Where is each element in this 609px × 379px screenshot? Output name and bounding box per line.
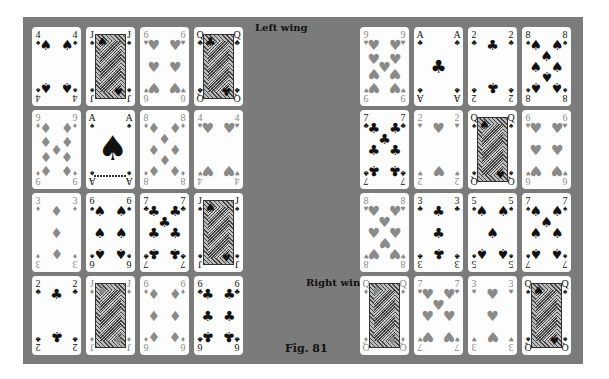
heart-icon: ♥	[168, 38, 182, 52]
playing-card-2-of-clubs: 2♣2♣2♣2♣♣♣	[32, 276, 81, 355]
club-icon: ♣	[486, 81, 500, 95]
figure-caption: Fig. 81	[285, 342, 328, 355]
spade-icon: ♠	[496, 204, 510, 218]
card-index: 3♣	[416, 252, 424, 269]
card-index: 2♣	[470, 86, 478, 103]
card-index: J♠	[233, 252, 241, 269]
club-icon: ♣	[233, 39, 241, 47]
club-icon: ♣	[367, 143, 381, 157]
playing-card-a-of-spades: A♠A♠A♠A♠♠	[86, 110, 135, 189]
playing-card-6-of-spades: 6♠6♠6♠6♠♠♠♠♠♠♠	[86, 193, 135, 272]
club-icon: ♣	[222, 287, 236, 301]
card-index: Q♠	[507, 169, 515, 186]
playing-card-j-of-diamonds: J♦J♦J♦J♦♦♦	[86, 276, 135, 355]
card-index: 2♥	[453, 113, 461, 130]
card-index: 2♥	[416, 113, 424, 130]
heart-icon: ♥	[147, 38, 161, 52]
spade-icon: ♠	[93, 247, 107, 261]
playing-card-9-of-hearts: 9♥9♥9♥9♥♥♥♥♥♥♥♥♥♥	[360, 27, 409, 106]
playing-card-8-of-diamonds: 8♦8♦8♦8♦♦♦♦♦♦♦♦♦	[140, 110, 189, 189]
heart-icon: ♥	[416, 122, 424, 130]
left-wing-label: Left wing	[255, 22, 307, 33]
spade-icon: ♠	[550, 247, 564, 261]
club-icon: ♣	[222, 330, 236, 344]
heart-icon: ♥	[201, 164, 215, 178]
spade-icon: ♠	[529, 226, 543, 240]
playing-card-2-of-clubs: 2♣2♣2♣2♣♣♣	[468, 27, 517, 106]
playing-card-5-of-spades: 5♠5♠5♠5♠♠♠♠♠♠	[468, 193, 517, 272]
club-icon: ♣	[147, 247, 161, 261]
club-icon: ♣	[201, 309, 215, 323]
playing-card-9-of-diamonds: 9♦9♦9♦9♦♦♦♦♦♦♦♦♦♦	[32, 110, 81, 189]
club-icon: ♣	[453, 205, 461, 213]
heart-icon: ♥	[529, 143, 543, 157]
card-index: A♣	[453, 86, 461, 103]
playing-card-7-of-clubs: 7♣7♣7♣7♣♣♣♣♣♣♣♣	[140, 193, 189, 272]
diamond-icon: ♦	[60, 164, 74, 178]
club-icon: ♣	[201, 287, 215, 301]
spade-icon: ♠	[205, 202, 216, 214]
playing-card-3-of-clubs: 3♣3♣3♣3♣♣♣♣	[414, 193, 463, 272]
diamond-icon: ♦	[125, 288, 133, 296]
card-index: 3♦	[71, 252, 79, 269]
playing-card-j-of-spades: J♠J♠J♠J♠♠♠	[194, 193, 243, 272]
card-index: 2♣	[71, 279, 79, 296]
heart-icon: ♥	[388, 38, 402, 52]
heart-icon: ♥	[486, 330, 500, 344]
ace-maker-text	[94, 175, 127, 177]
spade-icon: ♠	[549, 334, 560, 346]
club-icon: ♣	[367, 164, 381, 178]
spade-icon: ♠	[475, 204, 489, 218]
club-icon: ♣	[416, 252, 424, 260]
playing-card-6-of-diamonds: 6♦6♦6♦6♦♦♦♦♦♦♦	[140, 276, 189, 355]
card-index: Q♣	[233, 30, 241, 47]
club-icon: ♣	[205, 36, 216, 48]
spade-icon: ♠	[88, 122, 96, 130]
diamond-icon: ♦	[125, 335, 133, 343]
spade-icon: ♠	[533, 285, 544, 297]
diamond-icon: ♦	[71, 252, 79, 260]
club-icon: ♣	[222, 309, 236, 323]
spade-icon: ♠	[529, 247, 543, 261]
card-index: 3♣	[453, 252, 461, 269]
club-icon: ♣	[453, 39, 461, 47]
heart-icon: ♥	[416, 169, 424, 177]
playing-card-3-of-hearts: 3♥3♥3♥3♥♥♥♥	[468, 276, 517, 355]
heart-icon: ♥	[147, 81, 161, 95]
card-index: Q♦	[399, 279, 407, 296]
playing-card-6-of-hearts: 6♥6♥6♥6♥♥♥♥♥♥♥	[140, 27, 189, 106]
heart-icon: ♥	[367, 38, 381, 52]
diamond-icon: ♦	[34, 252, 42, 260]
heart-icon: ♥	[421, 309, 435, 323]
playing-card-q-of-spades: Q♠Q♠Q♠Q♠♠♠	[468, 110, 517, 189]
card-index: 3♦	[34, 252, 42, 269]
court-figure-q: ♠♠	[531, 283, 562, 348]
heart-icon: ♥	[388, 67, 402, 81]
club-icon: ♣	[430, 58, 448, 76]
diamond-icon: ♦	[60, 150, 74, 164]
diamond-icon: ♦	[97, 285, 108, 297]
card-index: 2♣	[34, 335, 42, 352]
club-icon: ♣	[507, 39, 515, 47]
spade-icon: ♠	[507, 122, 515, 130]
club-icon: ♣	[432, 226, 446, 240]
playing-card-6-of-hearts: 6♥6♥6♥6♥♥♥♥♥♥♥	[522, 110, 571, 189]
heart-icon: ♥	[529, 121, 543, 135]
heart-icon: ♥	[507, 288, 515, 296]
spade-icon: ♠	[496, 247, 510, 261]
card-index: A♣	[416, 86, 424, 103]
card-index: 2♣	[507, 86, 515, 103]
club-icon: ♣	[34, 335, 42, 343]
club-icon: ♣	[147, 226, 161, 240]
card-index: Q♦	[399, 335, 407, 352]
spade-icon: ♠	[98, 132, 124, 164]
spade-icon: ♠	[60, 38, 74, 52]
club-icon: ♣	[470, 86, 478, 94]
spade-icon: ♠	[475, 247, 489, 261]
playing-card-6-of-clubs: 6♣6♣6♣6♣♣♣♣♣♣♣	[194, 276, 243, 355]
court-figure-q: ♣♣	[203, 34, 234, 99]
card-index: J♠	[125, 30, 133, 47]
spade-icon: ♠	[561, 288, 569, 296]
playing-card-8-of-hearts: 8♥8♥8♥8♥♥♥♥♥♥♥♥♥	[360, 193, 409, 272]
spade-icon: ♠	[125, 86, 133, 94]
